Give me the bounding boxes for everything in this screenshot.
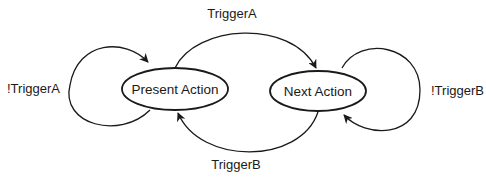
node-next-action: Next Action bbox=[270, 71, 366, 111]
state-diagram: Present Action Next Action !TriggerA Tri… bbox=[0, 0, 486, 177]
edge-label-trigger-b: TriggerB bbox=[211, 157, 260, 172]
edge-next-to-present bbox=[178, 112, 318, 152]
node-label: Present Action bbox=[131, 82, 218, 97]
edge-label-not-trigger-a: !TriggerA bbox=[7, 81, 60, 96]
edge-present-to-next bbox=[175, 33, 316, 68]
edge-label-not-trigger-b: !TriggerB bbox=[431, 83, 484, 98]
edge-label-trigger-a: TriggerA bbox=[207, 6, 257, 21]
node-present-action: Present Action bbox=[122, 68, 228, 110]
node-label: Next Action bbox=[284, 84, 352, 99]
